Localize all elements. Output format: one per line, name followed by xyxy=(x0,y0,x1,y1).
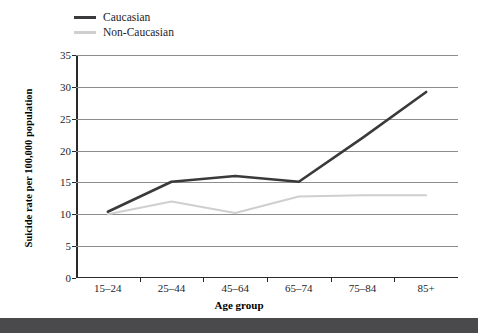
chart-legend: Caucasian Non-Caucasian xyxy=(74,10,294,40)
x-tick-mark-5 xyxy=(394,278,395,282)
legend-label-caucasian: Caucasian xyxy=(103,11,150,24)
y-axis-title: Suicide rate per 100,000 population xyxy=(14,55,44,280)
legend-swatch-non-caucasian xyxy=(74,31,96,34)
legend-swatch-caucasian xyxy=(74,16,96,19)
y-tick-label-20: 20 xyxy=(60,145,71,157)
y-tick-label-10: 10 xyxy=(60,208,71,220)
x-tick-mark-4 xyxy=(331,278,332,282)
legend-label-non-caucasian: Non-Caucasian xyxy=(103,26,174,39)
y-tick-label-30: 30 xyxy=(60,81,71,93)
y-tick-label-0: 0 xyxy=(66,272,72,284)
y-tick-mark-0 xyxy=(72,278,76,279)
y-axis-title-text: Suicide rate per 100,000 population xyxy=(23,88,35,247)
chart-page: Caucasian Non-Caucasian Suicide rate per… xyxy=(0,0,478,333)
y-tick-label-15: 15 xyxy=(60,176,71,188)
legend-item-non-caucasian: Non-Caucasian xyxy=(74,25,294,40)
y-tick-label-35: 35 xyxy=(60,49,71,61)
series-svg xyxy=(76,55,458,278)
series-line-caucasian xyxy=(108,92,426,212)
x-tick-label-3: 65–74 xyxy=(285,282,313,294)
x-axis-title: Age group xyxy=(0,299,478,311)
x-tick-mark-3 xyxy=(267,278,268,282)
y-tick-label-5: 5 xyxy=(66,240,72,252)
x-tick-label-5: 85+ xyxy=(418,282,435,294)
x-tick-mark-1 xyxy=(140,278,141,282)
x-tick-label-4: 75–84 xyxy=(349,282,377,294)
series-line-non-caucasian xyxy=(108,195,426,214)
x-tick-mark-2 xyxy=(203,278,204,282)
x-tick-label-1: 25–44 xyxy=(158,282,186,294)
page-footer-band xyxy=(0,318,478,333)
plot-area: 05101520253035 15–2425–4445–6465–7475–84… xyxy=(76,55,458,278)
legend-item-caucasian: Caucasian xyxy=(74,10,294,25)
x-tick-label-2: 45–64 xyxy=(221,282,249,294)
x-tick-label-0: 15–24 xyxy=(94,282,122,294)
y-tick-label-25: 25 xyxy=(60,113,71,125)
